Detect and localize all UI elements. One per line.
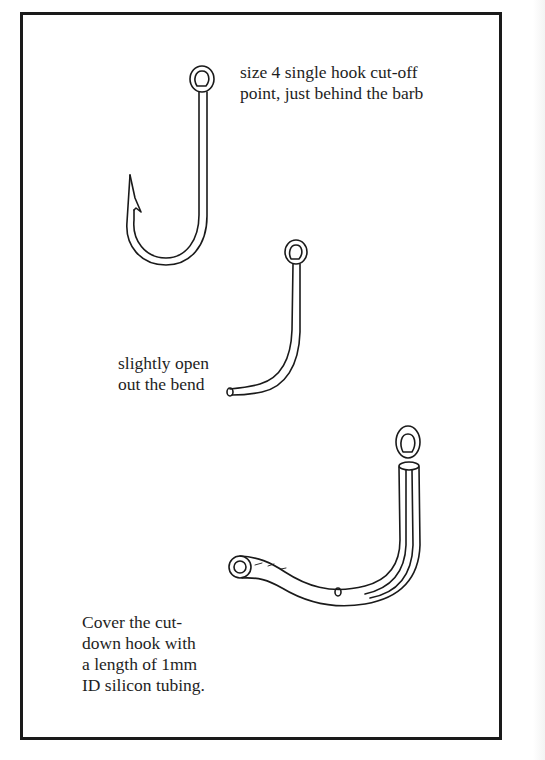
hook-with-tubing-drawing [229, 426, 420, 606]
label-cut-off-point: size 4 single hook cut-off point, just b… [240, 62, 423, 104]
hook-original-drawing [127, 66, 214, 265]
label-open-bend: slightly open out the bend [118, 353, 209, 395]
label-cover-tubing: Cover the cut- down hook with a length o… [82, 612, 205, 696]
hook-cut-down-drawing [227, 240, 307, 396]
